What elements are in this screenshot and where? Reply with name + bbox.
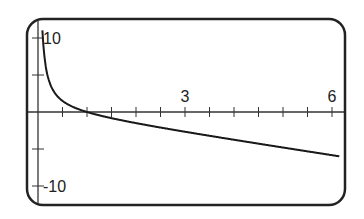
y-tick-label: 10 (43, 30, 61, 47)
graph-display: 3610-10 (0, 0, 364, 219)
y-tick-label: -10 (43, 178, 66, 195)
x-tick-label: 3 (181, 88, 190, 105)
x-tick-label: 6 (328, 88, 337, 105)
